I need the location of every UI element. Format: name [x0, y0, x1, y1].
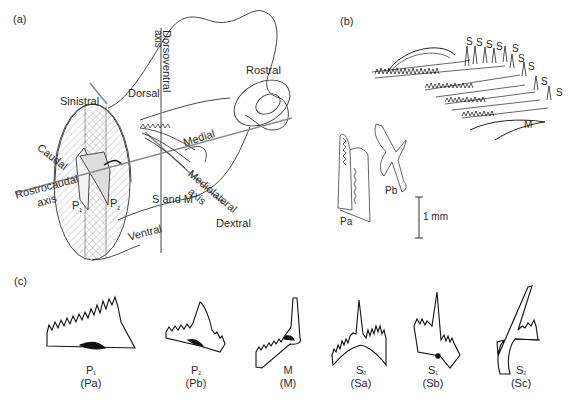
m-label: M	[524, 120, 532, 130]
s-label: S	[486, 40, 493, 50]
s-label: S	[556, 88, 563, 98]
element-caption-s0: S0 (Sa)	[336, 364, 386, 389]
element-caption-p1: P1 (Pa)	[66, 364, 116, 389]
s-label: S	[528, 62, 535, 72]
dextral-label: Dextral	[216, 218, 251, 229]
element-caption-s2: S2 (Sc)	[496, 364, 546, 389]
scale-bar-label: 1 mm	[423, 212, 448, 222]
s-m-apparatus-a	[140, 124, 206, 168]
sinistral-label: Sinistral	[60, 96, 99, 107]
elements-c	[47, 286, 540, 374]
figure-drawing	[0, 0, 573, 405]
pa-label: Pa	[340, 217, 352, 227]
s-label: S	[496, 42, 503, 52]
element-caption-m: M (M)	[263, 364, 313, 389]
scale-bar	[415, 197, 423, 238]
panel-c-label: (c)	[14, 276, 27, 287]
dorsal-label: Dorsal	[128, 88, 160, 99]
dorsoventral-axis-word: axis	[153, 30, 163, 48]
s-label: S	[476, 38, 483, 48]
panel-a-label: (a)	[13, 14, 26, 25]
element-caption-p2: P2 (Pb)	[171, 364, 221, 389]
pa-pb-elements	[338, 124, 406, 222]
s-label: S	[466, 37, 473, 47]
panel-b-label: (b)	[340, 16, 353, 27]
pb-label: Pb	[385, 186, 397, 196]
s-label: S	[541, 77, 548, 87]
p1-label: P1	[72, 200, 82, 213]
element-caption-s1: S1 (Sb)	[408, 364, 458, 389]
s-label: S	[518, 54, 525, 64]
rostral-label: Rostral	[246, 65, 281, 76]
p2-label: P2	[110, 198, 120, 211]
